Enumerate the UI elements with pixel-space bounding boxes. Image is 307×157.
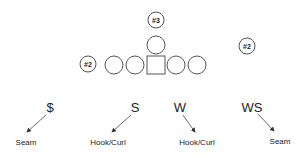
formation-diagram: #3 #2 #2 $ Seam S Hook/Curl W Hook/Curl … bbox=[0, 0, 307, 157]
defender-will: W Hook/Curl bbox=[174, 100, 215, 147]
receiver-2-right: #2 bbox=[239, 38, 255, 54]
lineman-circle bbox=[167, 56, 185, 74]
svg-text:WS: WS bbox=[242, 100, 263, 115]
svg-text:Seam: Seam bbox=[270, 137, 291, 146]
receiver-3: #3 bbox=[148, 12, 164, 28]
receiver-2-left: #2 bbox=[80, 56, 96, 72]
defender-strong: S Hook/Curl bbox=[90, 100, 139, 147]
lineman-circle bbox=[105, 56, 123, 74]
quarterback-circle bbox=[147, 36, 165, 54]
svg-text:W: W bbox=[174, 100, 187, 115]
svg-text:#2: #2 bbox=[84, 61, 92, 68]
svg-text:Hook/Curl: Hook/Curl bbox=[179, 138, 215, 147]
svg-text:#2: #2 bbox=[243, 43, 251, 50]
svg-text:S: S bbox=[131, 100, 140, 115]
lineman-circle bbox=[126, 56, 144, 74]
svg-text:Hook/Curl: Hook/Curl bbox=[90, 138, 126, 147]
svg-text:$: $ bbox=[46, 100, 54, 115]
defender-free-safety: $ Seam bbox=[16, 100, 55, 147]
center-square bbox=[147, 56, 165, 74]
defender-weak-safety: WS Seam bbox=[242, 100, 291, 146]
svg-text:#3: #3 bbox=[152, 17, 160, 24]
svg-text:Seam: Seam bbox=[16, 138, 37, 147]
lineman-circle bbox=[188, 56, 206, 74]
